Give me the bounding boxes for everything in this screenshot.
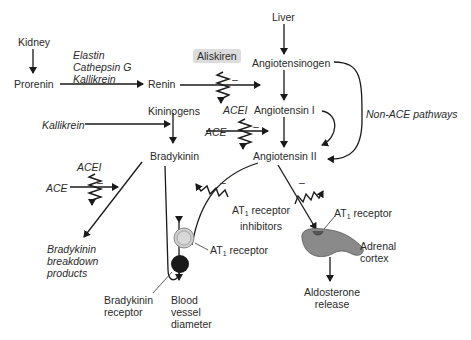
bradykinin-breakdown-label: Bradykinin breakdown products xyxy=(47,243,98,279)
minus-sign: – xyxy=(253,120,259,132)
angiotensin2-label: Angiotensin II xyxy=(253,150,317,162)
minus-sign: – xyxy=(232,73,238,85)
bradykinin-receptor-label: Bradykinin receptor xyxy=(104,294,153,318)
text-line: inhibitors xyxy=(232,220,290,232)
text-line: Bradykinin xyxy=(104,294,153,306)
acei-left-label: ACEI xyxy=(77,161,102,173)
kidney-label: Kidney xyxy=(18,36,50,48)
aldosterone-label: Aldosterone release xyxy=(304,286,360,310)
text-line: products xyxy=(47,267,98,279)
text-line: receptor xyxy=(104,306,153,318)
blood-vessel-label: Blood vessel diameter xyxy=(171,294,212,330)
angiotensinogen-label: Angiotensinogen xyxy=(252,57,330,69)
kallikrein-enzyme-label: Kallikrein xyxy=(73,73,131,85)
kininogens-label: Kininogens xyxy=(148,105,200,117)
adrenal-cortex-label: Adrenal cortex xyxy=(360,240,396,264)
text: AT xyxy=(210,244,223,256)
text: AT xyxy=(334,207,347,219)
cathepsin-label: Cathepsin G xyxy=(73,61,131,73)
minus-sign: – xyxy=(299,176,305,188)
elastin-label: Elastin xyxy=(73,49,131,61)
renin-label: Renin xyxy=(148,78,175,90)
at1-inhibitors-label: AT1 receptor inhibitors xyxy=(232,204,290,232)
at1-receptor-left-label: AT1 receptor xyxy=(210,244,268,260)
text-line: Aldosterone xyxy=(304,286,360,298)
acei-top-label: ACEI xyxy=(223,104,248,116)
bradykinin-label: Bradykinin xyxy=(150,150,199,162)
angiotensin1-label: Angiotensin I xyxy=(254,104,315,116)
kallikrein-label: Kallikrein xyxy=(42,119,85,131)
text: receptor xyxy=(227,244,268,256)
text-line: Blood xyxy=(171,294,212,306)
text: receptor xyxy=(249,204,290,216)
text-line: Bradykinin xyxy=(47,243,98,255)
ace-top-label: ACE xyxy=(205,126,227,138)
text-line: Adrenal xyxy=(360,240,396,252)
text-line: diameter xyxy=(171,318,212,330)
text-line: release xyxy=(304,298,360,310)
at1-receptor-right-label: AT1 receptor xyxy=(334,207,392,223)
ace-left-label: ACE xyxy=(46,182,68,194)
liver-label: Liver xyxy=(272,11,295,23)
minus-sign: – xyxy=(97,176,103,188)
text-line: cortex xyxy=(360,252,396,264)
text-line: vessel xyxy=(171,306,212,318)
minus-sign: – xyxy=(220,176,226,188)
aliskiren-label: Aliskiren xyxy=(193,49,241,63)
text: AT xyxy=(232,204,245,216)
text: receptor xyxy=(351,207,392,219)
text-line: breakdown xyxy=(47,255,98,267)
non-ace-label: Non-ACE pathways xyxy=(366,108,458,120)
prorenin-label: Prorenin xyxy=(14,78,54,90)
enzymes-label: Elastin Cathepsin G Kallikrein xyxy=(73,49,131,85)
